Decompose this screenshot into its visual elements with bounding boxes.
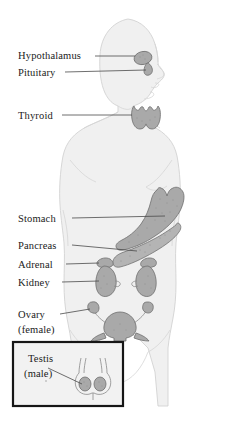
label-hypothalamus: Hypothalamus [18, 50, 81, 61]
anatomy-diagram: Hypothalamus Pituitary Thyroid Stomach P… [0, 0, 250, 422]
stipple-dot [143, 55, 144, 56]
stipple-dot [137, 234, 138, 235]
stipple-dot [161, 212, 162, 213]
stipple-dot [149, 119, 150, 120]
testis-inset: Testis (male) [13, 342, 123, 406]
stipple-dot [103, 275, 104, 276]
stipple-dot [169, 211, 170, 212]
inset-stray-dot [45, 380, 46, 381]
stipple-dot [102, 386, 103, 387]
stipple-dot [159, 237, 160, 238]
stipple-dot [128, 241, 129, 242]
stipple-dot [120, 260, 121, 261]
stipple-dot [114, 330, 115, 331]
label-ovary: Ovary [18, 309, 46, 320]
stipple-dot [83, 381, 84, 382]
stipple-dot [144, 58, 145, 59]
testis-right-shape [94, 377, 106, 391]
label-pituitary: Pituitary [18, 67, 56, 78]
stipple-dot [136, 117, 137, 118]
label-testis-sublabel: (male) [24, 368, 53, 380]
label-testis: Testis [28, 353, 53, 364]
stipple-dot [154, 219, 155, 220]
testis-left-shape [79, 377, 91, 391]
stipple-dot [176, 205, 177, 206]
ovary-left [88, 302, 99, 313]
stipple-dot [101, 288, 102, 289]
stipple-dot [98, 381, 99, 382]
stipple-dot [146, 227, 147, 228]
stipple-dot [172, 199, 173, 200]
stipple-dot [145, 252, 146, 253]
stipple-dot [119, 323, 120, 324]
stipple-dot [165, 235, 166, 236]
uterus-shape [104, 312, 136, 341]
stipple-dot [129, 255, 130, 256]
label-adrenal: Adrenal [18, 259, 53, 270]
stipple-dot [141, 120, 142, 121]
stipple-dot [169, 230, 170, 231]
ovary-right [143, 302, 154, 313]
stipple-dot [87, 386, 88, 387]
stipple-dot [144, 283, 145, 284]
stipple-dot [139, 249, 140, 250]
kidney-shape-right [136, 266, 156, 297]
stipple-dot [126, 330, 127, 331]
stipple-dot [149, 244, 150, 245]
stipple-dot [139, 56, 140, 57]
anatomy-figure: Hypothalamus Pituitary Thyroid Stomach P… [0, 0, 250, 422]
label-stomach: Stomach [18, 213, 56, 224]
stipple-dot [165, 221, 166, 222]
stipple-dot [146, 124, 147, 125]
label-kidney: Kidney [18, 277, 50, 288]
label-thyroid: Thyroid [18, 110, 53, 121]
stipple-dot [159, 198, 160, 199]
stipple-dot [106, 283, 107, 284]
stipple-dot [156, 208, 157, 209]
label-pancreas: Pancreas [18, 240, 57, 251]
stipple-dot [151, 288, 152, 289]
stipple-dot [147, 275, 148, 276]
stipple-dot [166, 202, 167, 203]
stipple-dot [154, 116, 155, 117]
label-ovary-sublabel: (female) [18, 324, 55, 336]
